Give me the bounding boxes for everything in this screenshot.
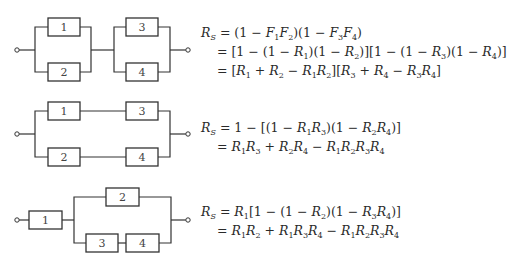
equation-1-line-1: RS = (1 − F1F2)(1 − F3F4) [201, 23, 507, 42]
output-terminal [186, 48, 190, 52]
reliability-block-diagrams: 1 2 3 4 1 3 2 4 1 2 3 4 [0, 0, 200, 273]
block-3: 3 [126, 102, 158, 120]
equation-2-line-2: = R1R3 + R2R4 − R1R2R3R4 [201, 137, 401, 156]
block-2: 2 [48, 148, 80, 166]
block-2: 2 [106, 188, 139, 206]
diagram-2-series-parallel: 1 3 2 4 [15, 102, 190, 166]
equation-3: RS = R1[1 − (1 − R2)(1 − R3R4)] = R1R2 +… [201, 202, 401, 240]
block-4: 4 [126, 234, 159, 252]
svg-text:1: 1 [61, 21, 68, 34]
equation-1-line-2: = [1 − (1 − R1)(1 − R2)][1 − (1 − R3)(1 … [201, 42, 507, 61]
svg-text:3: 3 [139, 21, 146, 34]
svg-text:1: 1 [42, 214, 49, 227]
svg-text:4: 4 [139, 237, 146, 250]
output-terminal [186, 132, 190, 136]
diagram-1-parallel-series: 1 2 3 4 [15, 18, 190, 81]
svg-text:1: 1 [61, 105, 68, 118]
svg-text:2: 2 [61, 151, 68, 164]
block-3: 3 [86, 234, 118, 252]
equation-1: RS = (1 − F1F2)(1 − F3F4) = [1 − (1 − R1… [201, 23, 507, 80]
input-terminal [15, 218, 19, 222]
diagram-3-mixed: 1 2 3 4 [15, 188, 190, 252]
svg-text:4: 4 [139, 66, 146, 79]
svg-text:2: 2 [119, 191, 126, 204]
block-4: 4 [126, 63, 158, 81]
equation-3-line-2: = R1R2 + R1R3R4 − R1R2R3R4 [201, 221, 401, 240]
equation-3-line-1: RS = R1[1 − (1 − R2)(1 − R3R4)] [201, 202, 401, 221]
block-1: 1 [48, 18, 80, 36]
svg-text:3: 3 [99, 237, 106, 250]
svg-text:3: 3 [139, 105, 146, 118]
equation-2-line-1: RS = 1 − [(1 − R1R3)(1 − R2R4)] [201, 118, 401, 137]
block-2: 2 [48, 63, 80, 81]
block-1: 1 [48, 102, 80, 120]
output-terminal [186, 218, 190, 222]
input-terminal [15, 48, 19, 52]
block-3: 3 [126, 18, 158, 36]
block-4: 4 [126, 148, 158, 166]
equation-2: RS = 1 − [(1 − R1R3)(1 − R2R4)] = R1R3 +… [201, 118, 401, 156]
svg-text:4: 4 [139, 151, 146, 164]
svg-text:2: 2 [61, 66, 68, 79]
input-terminal [15, 132, 19, 136]
equation-1-line-3: = [R1 + R2 − R1R2][R3 + R4 − R3R4] [201, 61, 507, 80]
block-1: 1 [29, 211, 62, 229]
